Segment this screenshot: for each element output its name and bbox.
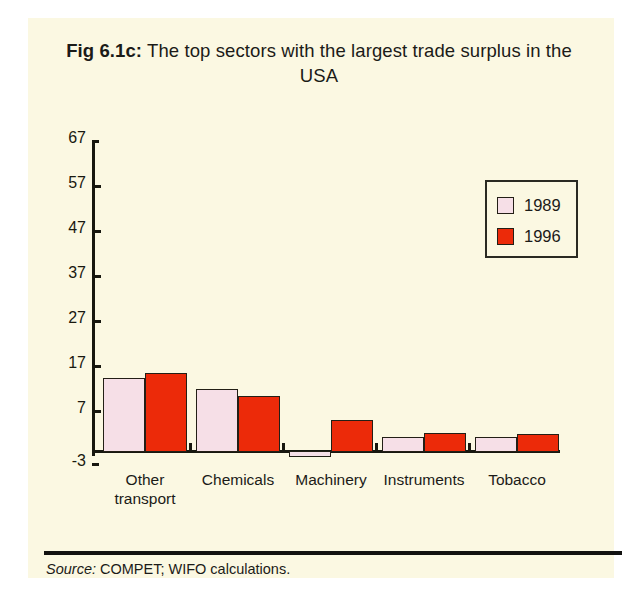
category-label-line2: transport [95, 489, 195, 508]
source-prefix: Source: [46, 561, 96, 577]
y-axis-label-7: 7 [46, 399, 86, 417]
footer-divider [44, 551, 622, 555]
x-axis-tick-1 [282, 443, 285, 451]
bar-tobacco-1989[interactable] [475, 437, 517, 452]
bar-instruments-1996[interactable] [424, 433, 466, 452]
x-axis-category-other-transport: Other transport [95, 470, 195, 508]
bar-other-transport-1996[interactable] [145, 373, 187, 452]
y-axis-label-47: 47 [46, 219, 86, 237]
source-text: COMPET; WIFO calculations. [100, 561, 290, 577]
figure-container: Fig 6.1c: The top sectors with the large… [0, 0, 640, 596]
y-axis-tick-37 [92, 275, 101, 278]
bar-chemicals-1989[interactable] [196, 389, 238, 452]
category-label-line1: Chemicals [188, 470, 288, 489]
y-axis-label-57: 57 [46, 174, 86, 192]
legend-label-1989: 1989 [524, 196, 561, 215]
y-axis-label-neg3: -3 [46, 452, 86, 470]
chart-legend: 1989 1996 [485, 180, 578, 258]
x-axis-category-machinery: Machinery [281, 470, 381, 489]
legend-swatch-1996-icon [497, 228, 514, 245]
y-axis-tick-neg3 [92, 463, 99, 466]
source-note: Source: COMPET; WIFO calculations. [46, 561, 290, 577]
bar-tobacco-1996[interactable] [517, 434, 559, 452]
bar-machinery-1989[interactable] [289, 451, 331, 457]
y-axis-label-27: 27 [46, 309, 86, 327]
legend-label-1996: 1996 [524, 227, 561, 246]
category-label-line1: Other [95, 470, 195, 489]
bar-chemicals-1996[interactable] [238, 396, 280, 452]
y-axis-label-37: 37 [46, 264, 86, 282]
y-axis-tick-27 [92, 320, 101, 323]
legend-swatch-1989-icon [497, 197, 514, 214]
category-label-line1: Machinery [281, 470, 381, 489]
bar-other-transport-1989[interactable] [103, 378, 145, 452]
legend-entry-1989[interactable]: 1989 [497, 195, 561, 215]
x-axis-category-instruments: Instruments [374, 470, 474, 489]
x-axis-category-tobacco: Tobacco [467, 470, 567, 489]
category-label-line1: Instruments [374, 470, 474, 489]
y-axis-tick-47 [92, 230, 101, 233]
y-axis-label-17: 17 [46, 354, 86, 372]
x-axis-category-chemicals: Chemicals [188, 470, 288, 489]
x-axis-tick-2 [375, 443, 378, 451]
bar-machinery-1996[interactable] [331, 420, 373, 452]
y-axis-tick-17 [92, 365, 101, 368]
category-label-line1: Tobacco [467, 470, 567, 489]
chart-plot-area: 67 57 47 37 27 17 7 -3 [0, 0, 640, 596]
x-axis-tick-3 [468, 443, 471, 451]
y-axis-tick-57 [92, 185, 101, 188]
y-axis-label-67: 67 [46, 129, 86, 147]
bar-instruments-1989[interactable] [382, 437, 424, 452]
y-axis-tick-67 [92, 140, 99, 143]
x-axis-tick-0 [189, 443, 192, 451]
y-axis-tick-7 [92, 410, 101, 413]
legend-entry-1996[interactable]: 1996 [497, 226, 561, 246]
